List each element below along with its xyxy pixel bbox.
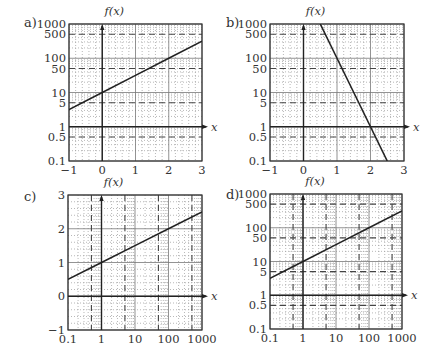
y-tick-label: 1000 xyxy=(238,17,267,31)
grid xyxy=(68,195,202,330)
y-tick-label: 10 xyxy=(51,86,66,100)
x-tick-label: 1 xyxy=(299,331,306,345)
x-axis-label: x xyxy=(411,288,418,302)
panel-c: −101230.11101001000f(x)xc) xyxy=(24,175,218,346)
x-tick-label: 1 xyxy=(98,332,105,346)
x-tick-label: −1 xyxy=(61,163,78,177)
panel-label: d) xyxy=(226,187,239,202)
x-axis-label: x xyxy=(211,289,218,303)
y-tick-label: 1000 xyxy=(37,17,66,31)
y-tick-label: 3 xyxy=(58,188,65,202)
panel-label: a) xyxy=(24,15,37,30)
panel-label: b) xyxy=(226,15,239,30)
y-tick-label: 100 xyxy=(44,51,66,65)
x-tick-label: 3 xyxy=(198,163,205,177)
y-axis-title: f(x) xyxy=(305,4,326,18)
y-tick-label: 10 xyxy=(252,86,267,100)
y-tick-label: 1 xyxy=(59,120,66,134)
panel-a: 0.10.51510501005001000−10123f(x)xa) xyxy=(24,4,218,177)
x-tick-label: 1 xyxy=(333,163,340,177)
x-tick-label: 3 xyxy=(400,163,407,177)
x-axis-label: x xyxy=(413,120,420,134)
x-tick-label: 0.1 xyxy=(59,332,77,346)
x-tick-label: 100 xyxy=(358,331,380,345)
y-tick-label: 10 xyxy=(252,255,267,269)
x-axis-label: x xyxy=(211,120,218,134)
x-tick-label: 2 xyxy=(165,163,172,177)
x-tick-label: 10 xyxy=(329,331,344,345)
y-axis-arrow-icon xyxy=(301,24,305,30)
grid xyxy=(69,24,202,161)
grid xyxy=(270,194,402,329)
x-axis-arrow-icon xyxy=(202,125,208,129)
x-tick-label: 0.1 xyxy=(261,331,279,345)
panel-b: 0.10.51510501005001000−10123f(x)xb) xyxy=(226,4,420,177)
y-tick-label: 1 xyxy=(58,256,65,270)
x-tick-label: 1000 xyxy=(387,331,416,345)
x-tick-label: −1 xyxy=(262,163,279,177)
panel-d: 0.10.515105010050010000.11101001000f(x)x… xyxy=(226,174,418,345)
grid xyxy=(270,24,404,161)
x-tick-label: 2 xyxy=(367,163,374,177)
x-tick-label: 1 xyxy=(132,163,139,177)
y-tick-label: 1 xyxy=(260,288,267,302)
y-axis-title: f(x) xyxy=(103,4,124,18)
panel-label: c) xyxy=(24,189,36,204)
x-tick-label: 1000 xyxy=(187,332,216,346)
x-axis-arrow-icon xyxy=(202,294,208,298)
y-axis-arrow-icon xyxy=(100,24,104,30)
y-axis-title: f(x) xyxy=(103,175,124,189)
x-axis-arrow-icon xyxy=(404,125,410,129)
y-tick-label: 0 xyxy=(58,289,65,303)
x-axis-arrow-icon xyxy=(402,293,408,297)
x-tick-label: 10 xyxy=(128,332,143,346)
y-tick-label: 100 xyxy=(245,51,267,65)
y-tick-label: 100 xyxy=(245,221,267,235)
x-tick-label: 100 xyxy=(158,332,180,346)
y-axis-title: f(x) xyxy=(304,174,325,188)
figure: 0.10.51510501005001000−10123f(x)xa) 0.10… xyxy=(0,0,432,353)
y-tick-label: 1000 xyxy=(238,187,267,201)
y-tick-label: 1 xyxy=(260,120,267,134)
y-tick-label: 2 xyxy=(58,222,65,236)
